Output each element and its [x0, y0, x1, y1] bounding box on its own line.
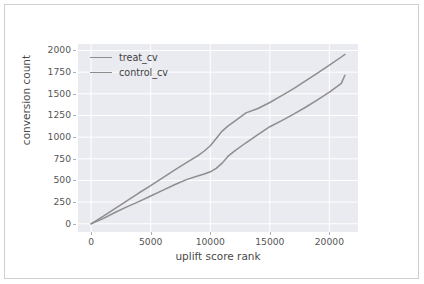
legend: treat_cv control_cv [86, 48, 172, 82]
x-tick-mark [91, 232, 92, 235]
y-tick-label: 250 [53, 197, 71, 207]
x-tick-label: 15000 [255, 236, 284, 247]
y-tick-mark [73, 94, 76, 95]
y-tick-mark [73, 202, 76, 203]
legend-item-treat-cv: treat_cv [90, 50, 168, 65]
x-tick-mark [329, 232, 330, 235]
x-tick-label: 0 [88, 236, 94, 247]
x-tick-label: 5000 [139, 236, 162, 247]
y-tick-label: 1000 [48, 132, 71, 142]
y-axis-label: conversion count [20, 15, 32, 185]
figure-canvas: 025050075010001250150017502000 050001000… [0, 0, 424, 284]
y-tick-label: 2000 [48, 45, 71, 55]
y-axis-tick-labels: 025050075010001250150017502000 [40, 44, 71, 232]
y-tick-label: 750 [53, 154, 71, 164]
y-tick-mark [73, 159, 76, 160]
y-tick-label: 1250 [48, 110, 71, 120]
y-tick-label: 1500 [48, 89, 71, 99]
x-tick-mark [270, 232, 271, 235]
y-tick-mark [73, 137, 76, 138]
legend-line-icon [90, 57, 112, 58]
x-tick-mark [210, 232, 211, 235]
x-tick-label: 20000 [315, 236, 344, 247]
series-line-control_cv [91, 75, 345, 224]
legend-item-control-cv: control_cv [90, 65, 168, 80]
y-tick-label: 1750 [48, 67, 71, 77]
x-tick-mark [151, 232, 152, 235]
legend-line-icon [90, 72, 112, 73]
y-tick-mark [73, 180, 76, 181]
y-tick-mark [73, 115, 76, 116]
y-tick-label: 500 [53, 175, 71, 185]
y-tick-mark [73, 72, 76, 73]
y-tick-label: 0 [65, 219, 71, 229]
y-tick-mark [73, 224, 76, 225]
x-axis-label: uplift score rank [78, 250, 358, 262]
legend-label: control_cv [119, 67, 168, 78]
x-tick-label: 10000 [196, 236, 225, 247]
legend-label: treat_cv [119, 52, 158, 63]
x-axis-tick-labels: 05000100001500020000 [78, 236, 358, 248]
y-tick-mark [73, 50, 76, 51]
